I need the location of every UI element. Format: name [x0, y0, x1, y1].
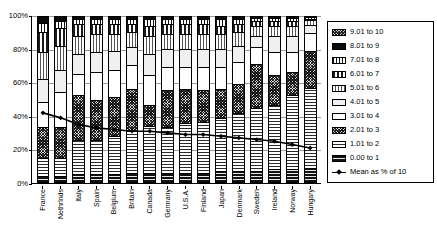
bar-segment[interactable]: [38, 17, 49, 24]
bar-segment[interactable]: [269, 170, 280, 182]
legend-item[interactable]: 3.01 to 4: [332, 109, 430, 123]
bar-segment[interactable]: [144, 20, 155, 27]
bar-segment[interactable]: [55, 29, 66, 47]
bar-segment[interactable]: [91, 175, 102, 182]
bar-segment[interactable]: [91, 73, 102, 101]
bar-segment[interactable]: [162, 91, 173, 127]
bar-segment[interactable]: [216, 172, 227, 182]
stacked-bar[interactable]: [126, 16, 139, 183]
bar-segment[interactable]: [109, 137, 120, 175]
bar-segment[interactable]: [91, 35, 102, 53]
bar-segment[interactable]: [55, 128, 66, 159]
bar-segment[interactable]: [198, 25, 209, 35]
bar-segment[interactable]: [287, 53, 298, 73]
bar-segment[interactable]: [233, 114, 244, 172]
bar-segment[interactable]: [162, 174, 173, 182]
legend-item[interactable]: 9.01 to 10: [332, 25, 430, 39]
bar-segment[interactable]: [162, 50, 173, 68]
bar-segment[interactable]: [73, 37, 84, 55]
bar-segment[interactable]: [73, 175, 84, 182]
bar-segment[interactable]: [38, 103, 49, 128]
stacked-bar[interactable]: [250, 16, 263, 183]
bar-segment[interactable]: [180, 90, 191, 125]
bar-segment[interactable]: [180, 68, 191, 89]
legend-item[interactable]: 6.01 to 7: [332, 67, 430, 81]
bar-segment[interactable]: [180, 35, 191, 50]
stacked-bar[interactable]: [179, 16, 192, 183]
bar-segment[interactable]: [216, 119, 227, 172]
bar-segment[interactable]: [233, 47, 244, 64]
bar-segment[interactable]: [55, 47, 66, 72]
bar-segment[interactable]: [91, 53, 102, 73]
bar-segment[interactable]: [251, 27, 262, 37]
bar-segment[interactable]: [109, 175, 120, 182]
bar-segment[interactable]: [251, 48, 262, 65]
bar-segment[interactable]: [109, 71, 120, 97]
bar-segment[interactable]: [233, 25, 244, 33]
stacked-bar[interactable]: [108, 16, 121, 183]
stacked-bar[interactable]: [54, 16, 67, 183]
bar-segment[interactable]: [198, 50, 209, 68]
legend-item[interactable]: 1.01 to 2: [332, 137, 430, 151]
bar-segment[interactable]: [73, 96, 84, 141]
stacked-bar[interactable]: [232, 16, 245, 183]
bar-segment[interactable]: [162, 68, 173, 91]
bar-segment[interactable]: [127, 174, 138, 182]
bar-segment[interactable]: [127, 90, 138, 133]
bar-segment[interactable]: [73, 141, 84, 176]
stacked-bar[interactable]: [286, 16, 299, 183]
bar-segment[interactable]: [251, 65, 262, 110]
bar-segment[interactable]: [144, 55, 155, 76]
stacked-bar[interactable]: [197, 16, 210, 183]
bar-segment[interactable]: [251, 172, 262, 182]
bar-segment[interactable]: [198, 68, 209, 91]
bar-segment[interactable]: [198, 35, 209, 50]
bar-segment[interactable]: [144, 127, 155, 173]
bar-segment[interactable]: [162, 25, 173, 35]
bar-segment[interactable]: [127, 48, 138, 66]
bar-segment[interactable]: [216, 20, 227, 27]
bar-segment[interactable]: [55, 93, 66, 128]
bar-segment[interactable]: [109, 25, 120, 35]
bar-segment[interactable]: [38, 128, 49, 159]
bar-segment[interactable]: [180, 124, 191, 174]
bar-segment[interactable]: [162, 35, 173, 50]
bar-segment[interactable]: [305, 89, 316, 169]
legend-item[interactable]: 4.01 to 5: [332, 95, 430, 109]
bar-segment[interactable]: [91, 25, 102, 35]
stacked-bar[interactable]: [90, 16, 103, 183]
bar-segment[interactable]: [55, 177, 66, 182]
bar-segment[interactable]: [55, 22, 66, 29]
bar-segment[interactable]: [127, 132, 138, 173]
bar-segment[interactable]: [233, 172, 244, 182]
bar-segment[interactable]: [305, 26, 316, 34]
bar-segment[interactable]: [287, 170, 298, 182]
bar-segment[interactable]: [216, 90, 227, 120]
legend-item[interactable]: 8.01 to 9: [332, 39, 430, 53]
bar-segment[interactable]: [198, 123, 209, 174]
stacked-bar[interactable]: [161, 16, 174, 183]
bar-segment[interactable]: [180, 25, 191, 35]
bar-segment[interactable]: [91, 101, 102, 141]
bar-segment[interactable]: [38, 159, 49, 177]
bar-segment[interactable]: [287, 73, 298, 96]
bar-segment[interactable]: [233, 63, 244, 84]
stacked-bar[interactable]: [304, 16, 317, 183]
bar-segment[interactable]: [269, 27, 280, 37]
bar-segment[interactable]: [127, 25, 138, 33]
bar-segment[interactable]: [109, 98, 120, 138]
bar-segment[interactable]: [109, 35, 120, 52]
legend-item[interactable]: 5.01 to 6: [332, 81, 430, 95]
bar-segment[interactable]: [144, 174, 155, 182]
bar-segment[interactable]: [38, 80, 49, 103]
bar-segment[interactable]: [216, 68, 227, 89]
bar-segment[interactable]: [305, 34, 316, 52]
bar-segment[interactable]: [269, 106, 280, 170]
stacked-bar[interactable]: [143, 16, 156, 183]
bar-segment[interactable]: [287, 27, 298, 37]
stacked-bar[interactable]: [37, 16, 50, 183]
bar-segment[interactable]: [305, 169, 316, 182]
bar-segment[interactable]: [287, 96, 298, 170]
stacked-bar[interactable]: [215, 16, 228, 183]
legend-item[interactable]: 7.01 to 8: [332, 53, 430, 67]
